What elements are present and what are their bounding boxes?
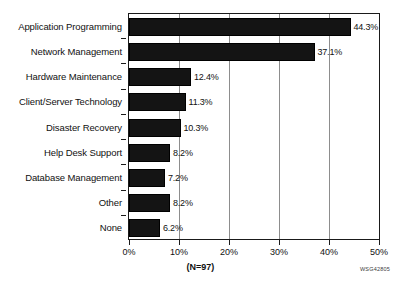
bar-value-label: 37.1% bbox=[318, 47, 343, 57]
bar-row: 37.1% bbox=[129, 43, 379, 61]
bars-layer: 44.3%37.1%12.4%11.3%10.3%8.2%7.2%8.2%6.2… bbox=[129, 14, 379, 239]
x-tick-label: 0% bbox=[122, 247, 135, 258]
document-code: WSG42805 bbox=[360, 266, 390, 273]
category-tick bbox=[121, 164, 126, 165]
bar-value-label: 8.2% bbox=[173, 198, 193, 208]
bar-value-label: 10.3% bbox=[184, 123, 209, 133]
x-tick-mark bbox=[179, 240, 180, 245]
x-tick-mark bbox=[329, 240, 330, 245]
bar-value-label: 12.4% bbox=[194, 72, 219, 82]
bar-row: 11.3% bbox=[129, 93, 379, 111]
plot-area: 44.3%37.1%12.4%11.3%10.3%8.2%7.2%8.2%6.2… bbox=[128, 13, 380, 240]
category-tick bbox=[121, 114, 126, 115]
category-label: Client/Server Technology bbox=[19, 92, 122, 110]
sample-size-note: (N=97) bbox=[0, 262, 401, 273]
x-tick-label: 30% bbox=[270, 247, 288, 258]
category-axis-labels: Application ProgrammingNetwork Managemen… bbox=[0, 13, 126, 240]
category-label: Other bbox=[99, 193, 122, 211]
category-tick bbox=[121, 63, 126, 64]
category-tick bbox=[121, 190, 126, 191]
bar bbox=[129, 144, 170, 162]
bar-row: 8.2% bbox=[129, 144, 379, 162]
bar-value-label: 6.2% bbox=[163, 223, 183, 233]
category-label: Hardware Maintenance bbox=[26, 67, 122, 85]
category-tick bbox=[121, 215, 126, 216]
x-tick-mark bbox=[229, 240, 230, 245]
category-label: Help Desk Support bbox=[44, 143, 122, 161]
bar bbox=[129, 169, 165, 187]
bar-value-label: 7.2% bbox=[168, 173, 188, 183]
x-tick-mark bbox=[379, 240, 380, 245]
x-tick-mark bbox=[279, 240, 280, 245]
bar bbox=[129, 219, 160, 237]
category-tick bbox=[121, 139, 126, 140]
bar-row: 6.2% bbox=[129, 219, 379, 237]
bar bbox=[129, 18, 351, 36]
bar-row: 8.2% bbox=[129, 194, 379, 212]
category-label: Application Programming bbox=[18, 17, 122, 35]
bar bbox=[129, 93, 186, 111]
bar bbox=[129, 194, 170, 212]
bar-value-label: 11.3% bbox=[189, 97, 213, 107]
category-label: Disaster Recovery bbox=[46, 118, 122, 136]
category-tick bbox=[121, 38, 126, 39]
bar-row: 7.2% bbox=[129, 169, 379, 187]
bar bbox=[129, 43, 315, 61]
category-label: Network Management bbox=[31, 42, 122, 60]
category-tick bbox=[121, 89, 126, 90]
bar-value-label: 44.3% bbox=[354, 22, 379, 32]
bar-value-label: 8.2% bbox=[173, 148, 193, 158]
bar bbox=[129, 68, 191, 86]
bar bbox=[129, 119, 181, 137]
x-tick-mark bbox=[129, 240, 130, 245]
x-tick-label: 10% bbox=[170, 247, 188, 258]
bar-chart-figure: Application ProgrammingNetwork Managemen… bbox=[0, 0, 401, 291]
bar-row: 44.3% bbox=[129, 18, 379, 36]
x-tick-label: 40% bbox=[320, 247, 338, 258]
category-label: Database Management bbox=[25, 168, 122, 186]
bar-row: 12.4% bbox=[129, 68, 379, 86]
x-tick-label: 50% bbox=[370, 247, 388, 258]
category-label: None bbox=[100, 218, 122, 236]
bar-row: 10.3% bbox=[129, 119, 379, 137]
x-tick-label: 20% bbox=[220, 247, 238, 258]
